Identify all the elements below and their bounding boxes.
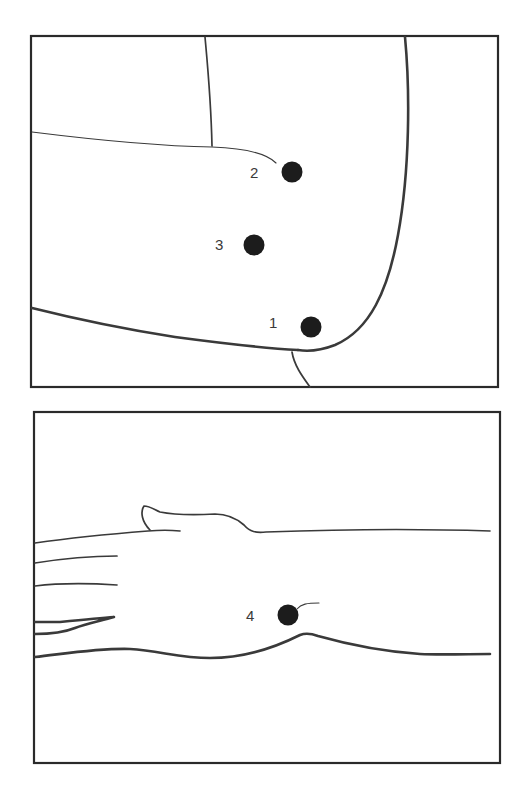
acupoint-2-label: 2	[250, 164, 258, 181]
panel-elbow-frame	[31, 36, 498, 387]
acupoint-3-label: 3	[215, 236, 223, 253]
panel-elbow: 1 2 3	[31, 36, 498, 387]
acupoint-4-label: 4	[246, 607, 254, 624]
panel-wrist-frame	[34, 412, 500, 763]
acupoint-1-label: 1	[269, 314, 277, 331]
acupoint-3-dot	[244, 235, 265, 256]
acupoint-4-dot	[278, 605, 299, 626]
diagram-canvas: 1 2 3 4	[0, 0, 529, 805]
panel-wrist: 4	[34, 412, 500, 763]
acupoint-1-dot	[301, 317, 322, 338]
acupoint-2-dot	[282, 162, 303, 183]
